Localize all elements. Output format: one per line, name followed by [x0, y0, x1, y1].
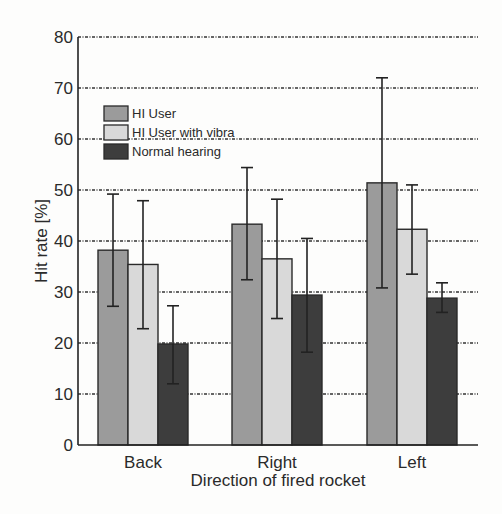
legend-swatch: [104, 106, 128, 121]
bar: [427, 298, 457, 445]
y-tick-label: 30: [54, 283, 73, 302]
y-tick-label: 20: [54, 334, 73, 353]
x-category-label: Left: [398, 453, 427, 472]
x-category-label: Right: [257, 453, 297, 472]
y-tick-label: 80: [54, 28, 73, 47]
legend-swatch: [104, 125, 128, 140]
legend-label: Normal hearing: [132, 144, 221, 159]
legend-label: HI User with vibra: [132, 125, 235, 140]
x-category-labels: BackRightLeft: [124, 453, 426, 472]
bar-chart: 01020304050607080 BackRightLeft Directio…: [0, 0, 502, 514]
y-tick-label: 40: [54, 232, 73, 251]
y-tick-label: 0: [64, 436, 73, 455]
y-tick-labels: 01020304050607080: [54, 28, 73, 455]
x-category-label: Back: [124, 453, 162, 472]
legend-label: HI User: [132, 106, 177, 121]
y-tick-label: 70: [54, 79, 73, 98]
y-tick-label: 50: [54, 181, 73, 200]
x-axis-label: Direction of fired rocket: [191, 471, 366, 490]
y-tick-label: 10: [54, 385, 73, 404]
y-axis-label: Hit rate [%]: [32, 199, 51, 283]
legend-swatch: [104, 144, 128, 159]
legend: HI UserHI User with vibraNormal hearing: [104, 106, 235, 159]
y-tick-label: 60: [54, 130, 73, 149]
